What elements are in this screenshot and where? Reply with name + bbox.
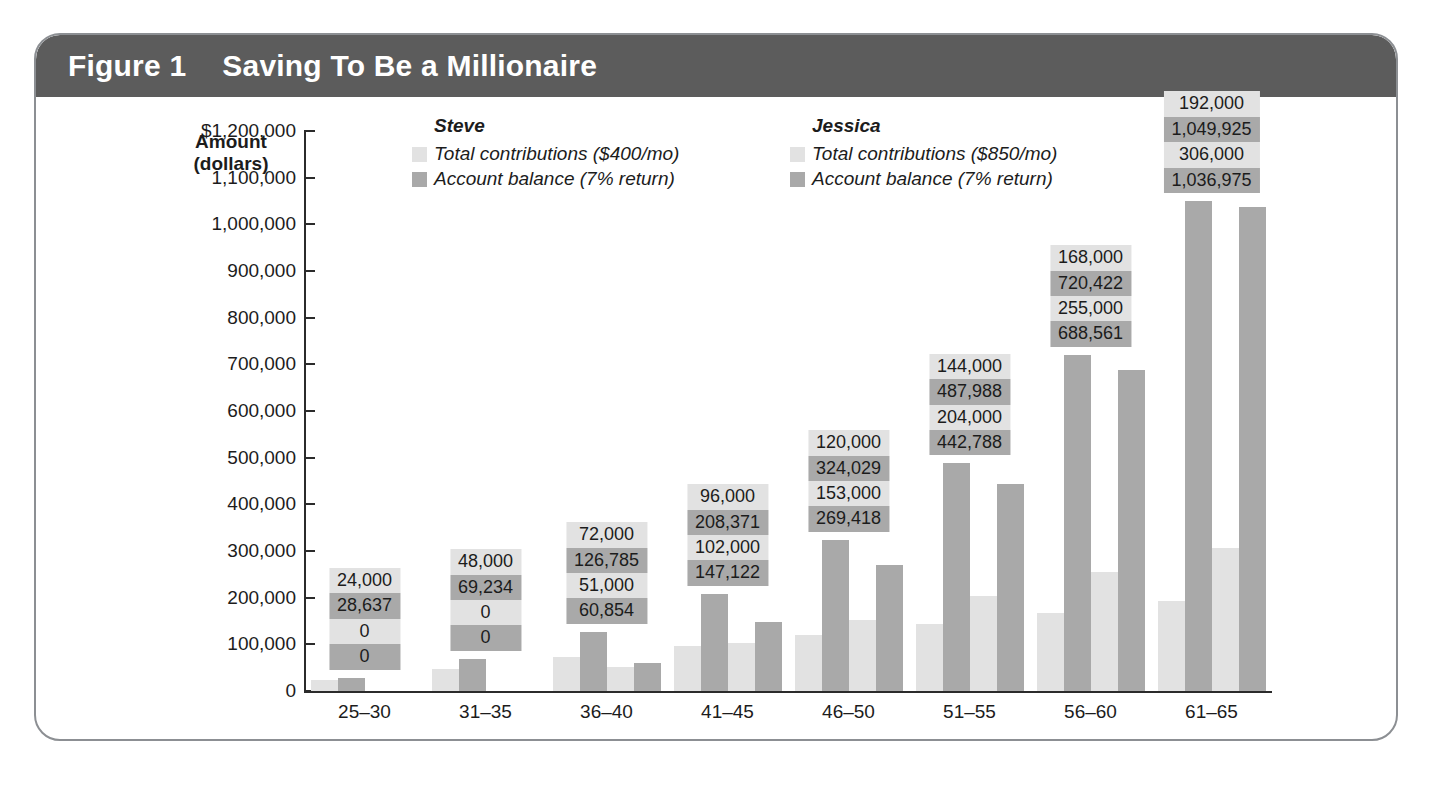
bar-value-label: 1,049,925 <box>1163 117 1259 142</box>
bar-value-label-stack: 120,000324,029153,000269,418 <box>808 430 889 532</box>
bar <box>755 622 782 691</box>
bar-value-label: 60,854 <box>566 598 647 623</box>
bar <box>459 659 486 691</box>
bar-value-label: 102,000 <box>687 535 768 560</box>
y-axis-tick-label: 1,100,000 <box>136 167 296 189</box>
bar <box>943 463 970 691</box>
bar <box>553 657 580 691</box>
x-axis-tick-label: 25–30 <box>338 701 391 723</box>
y-axis-tick-label: 300,000 <box>136 540 296 562</box>
bar-group: 24,00028,63700 <box>304 131 425 691</box>
bar-value-label: 204,000 <box>929 405 1010 430</box>
bar <box>607 667 634 691</box>
x-axis-tick-labels: 25–3031–3536–4041–4546–5051–5556–6061–65 <box>304 701 1272 731</box>
y-axis-tick-label: 800,000 <box>136 307 296 329</box>
bar-value-label: 0 <box>329 619 400 644</box>
bar-group-bars <box>1151 131 1272 691</box>
bar-value-label: 0 <box>329 644 400 669</box>
bar <box>916 624 943 691</box>
bar-value-label: 487,988 <box>929 379 1010 404</box>
bar <box>338 678 365 691</box>
bar-value-label: 51,000 <box>566 573 647 598</box>
bar-groups-layer: 24,00028,6370048,00069,2340072,000126,78… <box>304 131 1272 691</box>
bar-group: 168,000720,422255,000688,561 <box>1030 131 1151 691</box>
bar-value-label-stack: 24,00028,63700 <box>329 568 400 670</box>
bar <box>1158 601 1185 691</box>
bar <box>822 540 849 691</box>
y-axis-tick-label: 1,000,000 <box>136 213 296 235</box>
bar-value-label: 69,234 <box>450 575 521 600</box>
bar <box>674 646 701 691</box>
bar <box>1037 613 1064 691</box>
bar <box>1091 572 1118 691</box>
x-axis-tick-label: 46–50 <box>822 701 875 723</box>
bar <box>634 663 661 691</box>
bar-value-label-stack: 168,000720,422255,000688,561 <box>1050 245 1131 347</box>
figure-number: Figure 1 <box>68 49 186 83</box>
bar <box>311 680 338 691</box>
x-axis-line <box>304 691 1272 693</box>
bar-group: 192,0001,049,925306,0001,036,975 <box>1151 131 1272 691</box>
y-axis-tick-label: 400,000 <box>136 493 296 515</box>
chart-plot-area: Amount (dollars) $1,200,0001,100,0001,00… <box>36 97 1396 739</box>
x-axis-tick-label: 51–55 <box>943 701 996 723</box>
bar-value-label: 720,422 <box>1050 271 1131 296</box>
bar-value-label: 96,000 <box>687 484 768 509</box>
y-axis-tick-label: 200,000 <box>136 587 296 609</box>
bar-value-label: 28,637 <box>329 593 400 618</box>
x-axis-tick-label: 56–60 <box>1064 701 1117 723</box>
bar-value-label-stack: 192,0001,049,925306,0001,036,975 <box>1163 91 1259 193</box>
x-axis-tick-label: 31–35 <box>459 701 512 723</box>
bar-value-label: 168,000 <box>1050 245 1131 270</box>
bar-value-label: 126,785 <box>566 548 647 573</box>
bar <box>728 643 755 691</box>
bar-group-bars <box>788 131 909 691</box>
bar-value-label: 324,029 <box>808 456 889 481</box>
bar <box>1064 355 1091 691</box>
bar-group: 96,000208,371102,000147,122 <box>667 131 788 691</box>
bar-value-label: 153,000 <box>808 481 889 506</box>
figure-header: Figure 1 Saving To Be a Millionaire <box>36 35 1396 97</box>
y-axis-tick-label: 500,000 <box>136 447 296 469</box>
bar-value-label: 688,561 <box>1050 321 1131 346</box>
bar-value-label: 0 <box>450 625 521 650</box>
y-axis-tick-label: 600,000 <box>136 400 296 422</box>
x-axis-tick-label: 36–40 <box>580 701 633 723</box>
bar <box>849 620 876 691</box>
x-axis-tick-label: 61–65 <box>1185 701 1238 723</box>
bar <box>701 594 728 691</box>
bar <box>580 632 607 691</box>
bar <box>970 596 997 691</box>
x-axis-tick-label: 41–45 <box>701 701 754 723</box>
bar <box>1239 207 1266 691</box>
bar-group-bars <box>667 131 788 691</box>
figure-container: Figure 1 Saving To Be a Millionaire Amou… <box>34 33 1398 741</box>
bar-value-label: 72,000 <box>566 522 647 547</box>
figure-title: Saving To Be a Millionaire <box>222 49 597 83</box>
y-axis-tick-label: 0 <box>136 680 296 702</box>
y-axis-tick-label: 700,000 <box>136 353 296 375</box>
bar <box>1118 370 1145 691</box>
bar-value-label: 192,000 <box>1163 91 1259 116</box>
bar-value-label-stack: 144,000487,988204,000442,788 <box>929 354 1010 456</box>
bar-value-label: 208,371 <box>687 510 768 535</box>
bar-value-label: 147,122 <box>687 560 768 585</box>
bar-value-label: 48,000 <box>450 549 521 574</box>
bar <box>432 669 459 691</box>
bar-value-label: 255,000 <box>1050 296 1131 321</box>
y-axis-tick-label: $1,200,000 <box>136 120 296 142</box>
bar <box>997 484 1024 691</box>
x-axis-title: Age <box>304 739 1272 741</box>
bar-group: 144,000487,988204,000442,788 <box>909 131 1030 691</box>
bar-value-label-stack: 72,000126,78551,00060,854 <box>566 522 647 624</box>
bar <box>876 565 903 691</box>
bar-group-bars <box>1030 131 1151 691</box>
y-axis-tick-label: 100,000 <box>136 633 296 655</box>
bar-value-label-stack: 48,00069,23400 <box>450 549 521 651</box>
bar <box>1185 201 1212 691</box>
bar <box>795 635 822 691</box>
bar-group: 48,00069,23400 <box>425 131 546 691</box>
bar-value-label: 306,000 <box>1163 142 1259 167</box>
bar-group: 120,000324,029153,000269,418 <box>788 131 909 691</box>
bar-group: 72,000126,78551,00060,854 <box>546 131 667 691</box>
